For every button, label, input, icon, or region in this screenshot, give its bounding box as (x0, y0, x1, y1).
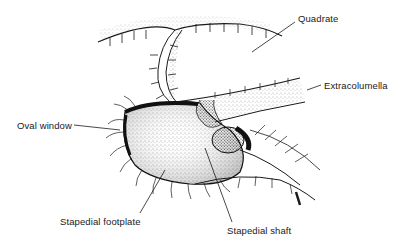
label-oval-window: Oval window (17, 120, 72, 131)
label-stapedial-shaft: Stapedial shaft (227, 225, 291, 236)
label-quadrate: Quadrate (298, 13, 338, 24)
label-extracolumella: Extracolumella (324, 80, 388, 91)
label-stapedial-footplate: Stapedial footplate (60, 216, 141, 227)
